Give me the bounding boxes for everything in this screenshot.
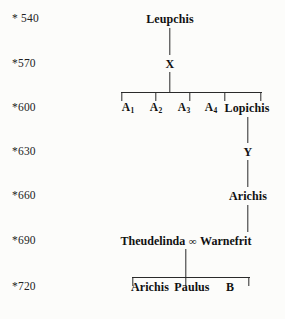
connector-lopichis-to-y bbox=[247, 117, 248, 143]
node-paulus: Paulus bbox=[174, 280, 209, 295]
connector-marriage-to-children-bar bbox=[185, 249, 186, 277]
sibling-drop-a2 bbox=[155, 92, 156, 101]
node-arichis-720: Arichis bbox=[131, 280, 169, 295]
marriage-theudelinda-warnefrit: Theudelinda∞Warnefrit bbox=[121, 234, 252, 249]
year-label-630: *630 bbox=[12, 145, 68, 157]
node-y: Y bbox=[244, 145, 253, 160]
node-a1-subscript: 1 bbox=[131, 106, 135, 115]
node-a4-subscript: 4 bbox=[214, 106, 218, 115]
node-x: X bbox=[166, 57, 175, 72]
year-label-690: *690 bbox=[12, 234, 68, 246]
year-label-720: *720 bbox=[12, 280, 68, 292]
sibling-drop-a3 bbox=[189, 92, 190, 101]
node-a4-label: A bbox=[205, 101, 213, 113]
node-a3-subscript: 3 bbox=[187, 106, 191, 115]
connector-arichis-to-warnefrit bbox=[247, 205, 248, 232]
year-label-660: *660 bbox=[12, 189, 68, 201]
node-a1-label: A bbox=[122, 101, 130, 113]
year-label-540: * 540 bbox=[12, 12, 68, 24]
node-warnefrit: Warnefrit bbox=[200, 234, 251, 248]
node-lopichis: Lopichis bbox=[225, 101, 270, 116]
children-drop-b bbox=[248, 277, 249, 286]
year-label-600: *600 bbox=[12, 101, 68, 113]
node-b: B bbox=[226, 280, 234, 295]
node-leupchis: Leupchis bbox=[146, 12, 193, 27]
node-theudelinda: Theudelinda bbox=[121, 234, 186, 248]
connector-x-to-sibling-bar bbox=[169, 72, 170, 92]
marriage-infinity-icon: ∞ bbox=[185, 235, 200, 247]
node-a2-subscript: 2 bbox=[159, 106, 163, 115]
node-a2-label: A bbox=[150, 101, 158, 113]
children-bar-generation-720 bbox=[132, 277, 250, 278]
genealogy-diagram: * 540 *570 *600 *630 *660 *690 *720 Leup… bbox=[0, 0, 285, 319]
connector-leupchis-to-x bbox=[169, 28, 170, 55]
node-arichis-660: Arichis bbox=[229, 189, 267, 204]
node-a4: A4 bbox=[205, 101, 217, 113]
sibling-drop-lopichis bbox=[260, 92, 261, 101]
year-label-570: *570 bbox=[12, 57, 68, 69]
sibling-drop-a4 bbox=[224, 92, 225, 101]
node-a3-label: A bbox=[178, 101, 186, 113]
node-a2: A2 bbox=[150, 101, 162, 113]
sibling-bar-generation-600 bbox=[121, 92, 262, 93]
node-a3: A3 bbox=[178, 101, 190, 113]
connector-y-to-arichis bbox=[247, 160, 248, 187]
sibling-drop-a1 bbox=[121, 92, 122, 101]
node-a1: A1 bbox=[122, 101, 134, 113]
